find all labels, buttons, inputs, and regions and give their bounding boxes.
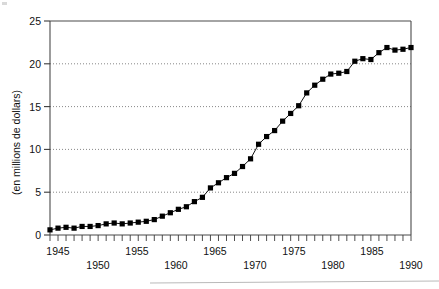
data-point <box>280 119 285 124</box>
data-point <box>79 224 84 229</box>
data-point <box>128 220 133 225</box>
data-point <box>104 221 109 226</box>
data-point <box>360 56 365 61</box>
data-point <box>304 90 309 95</box>
data-point <box>184 204 189 209</box>
chart-figure: (en millions de dollars) 0 5 <box>0 0 439 289</box>
data-point <box>288 111 293 116</box>
x-tick-label-1970: 1970 <box>243 259 267 271</box>
data-point <box>176 207 181 212</box>
data-point <box>256 142 261 147</box>
data-point <box>264 134 269 139</box>
y-tick-label-10: 10 <box>29 143 41 155</box>
data-point <box>96 223 101 228</box>
data-point <box>200 195 205 200</box>
y-tick-label-0: 0 <box>35 229 41 241</box>
y-tick-label-20: 20 <box>29 58 41 70</box>
x-tick-label-1945: 1945 <box>46 245 70 257</box>
data-point <box>368 57 373 62</box>
data-point <box>168 210 173 215</box>
data-point <box>144 219 149 224</box>
x-tick-marks <box>50 235 411 241</box>
data-point <box>55 226 60 231</box>
data-point <box>328 71 333 76</box>
data-point <box>63 225 68 230</box>
x-tick-label-1990: 1990 <box>399 259 423 271</box>
y-tick-labels: 0 5 10 15 20 25 <box>29 15 41 241</box>
data-point <box>384 45 389 50</box>
y-tick-label-5: 5 <box>35 186 41 198</box>
data-point <box>352 59 357 64</box>
data-point <box>272 128 277 133</box>
data-point <box>296 103 301 108</box>
x-tick-label-1965: 1965 <box>203 245 227 257</box>
data-line <box>50 48 411 230</box>
data-point <box>320 77 325 82</box>
data-point <box>216 180 221 185</box>
scan-speck <box>2 2 7 5</box>
data-point <box>160 214 165 219</box>
data-point <box>47 227 52 232</box>
y-tick-label-25: 25 <box>29 15 41 27</box>
data-point <box>400 47 405 52</box>
page-rule <box>150 281 439 283</box>
data-point <box>88 224 93 229</box>
data-point <box>120 221 125 226</box>
y-axis-label: (en millions de dollars) <box>10 90 22 195</box>
x-tick-label-1955: 1955 <box>125 245 149 257</box>
data-point <box>152 217 157 222</box>
line-chart: (en millions de dollars) 0 5 <box>0 0 439 289</box>
x-tick-label-1975: 1975 <box>282 245 306 257</box>
y-tick-marks <box>44 21 50 235</box>
axis-frame <box>50 21 411 235</box>
data-point <box>136 220 141 225</box>
data-point <box>192 199 197 204</box>
x-tick-label-1980: 1980 <box>321 259 345 271</box>
data-point <box>208 185 213 190</box>
x-tick-label-1960: 1960 <box>164 259 188 271</box>
data-point <box>71 226 76 231</box>
data-point <box>112 220 117 225</box>
data-point <box>240 164 245 169</box>
data-point <box>376 50 381 55</box>
data-point <box>336 71 341 76</box>
data-point <box>344 69 349 74</box>
x-tick-label-1985: 1985 <box>360 245 384 257</box>
data-point <box>224 175 229 180</box>
y-tick-label-15: 15 <box>29 101 41 113</box>
x-tick-label-1950: 1950 <box>86 259 110 271</box>
x-tick-labels: 1945 1955 1965 1975 1985 1950 1960 1970 … <box>46 245 423 271</box>
data-point <box>408 45 413 50</box>
data-point <box>248 156 253 161</box>
data-point <box>232 171 237 176</box>
gridlines <box>50 64 411 192</box>
data-point <box>312 83 317 88</box>
data-markers <box>47 45 413 233</box>
data-point <box>392 48 397 53</box>
